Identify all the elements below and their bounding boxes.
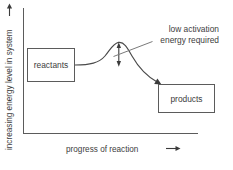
y-axis-arrow-icon <box>7 3 12 16</box>
activation-energy-annotation-line1: low activation <box>169 24 220 34</box>
reaction-pathway-curve <box>75 42 158 82</box>
activation-energy-annotation-line2: energy required <box>160 35 219 45</box>
products-label: products <box>170 94 202 104</box>
energy-profile-diagram: increasing energy level in system reacta… <box>0 0 233 170</box>
y-axis-label: increasing energy level in system <box>5 29 14 150</box>
reactants-label: reactants <box>34 60 68 70</box>
x-axis-arrow-icon <box>166 146 181 151</box>
diagram-canvas: increasing energy level in system reacta… <box>0 0 233 170</box>
x-axis-label: progress of reaction <box>66 145 139 154</box>
